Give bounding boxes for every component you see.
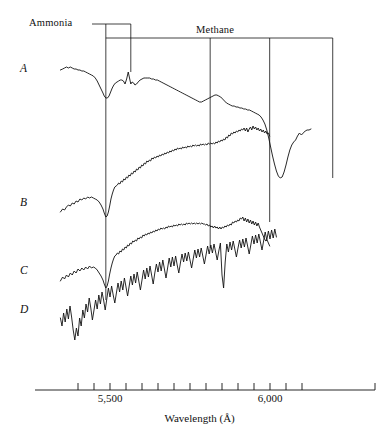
trace-label-d: D: [20, 303, 28, 315]
axis-title-wavelength: Wavelength (Å): [164, 412, 234, 424]
ammonia-leader-line: [92, 24, 131, 72]
spectrum-trace-c: [60, 217, 269, 288]
axis-tick-label: 6,000: [258, 392, 283, 404]
trace-label-c: C: [20, 264, 28, 276]
spectrum-trace-layer: [60, 67, 311, 340]
spectrum-trace-b: [60, 126, 269, 217]
spectra-plot: [0, 0, 391, 445]
trace-label-b: B: [20, 196, 27, 208]
methane-bracket-label: Methane: [196, 24, 234, 35]
spectrum-trace-a: [60, 67, 311, 178]
axis-tick-label: 5,500: [98, 392, 123, 404]
ammonia-bracket-label: Ammonia: [29, 17, 72, 28]
trace-label-a: A: [20, 62, 27, 74]
annotation-bracket-layer: [92, 24, 333, 300]
spectra-figure: Ammonia Methane A B C D 5,5006,000 Wavel…: [0, 0, 391, 445]
spectrum-trace-d: [60, 229, 276, 340]
wavelength-axis: [35, 383, 375, 390]
